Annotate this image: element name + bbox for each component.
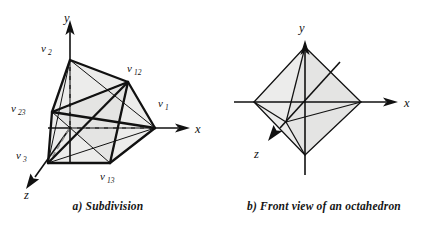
- vertex-label-v3: v 3: [16, 149, 27, 164]
- caption-octahedron: b) Front view of an octahedron: [216, 200, 432, 212]
- vertex-label-v12: v 12: [127, 62, 142, 77]
- v12-base: v: [127, 62, 132, 74]
- caption-subdivision: a) Subdivision: [0, 200, 216, 212]
- v13-sub: 13: [107, 176, 115, 185]
- v1-base: v: [158, 97, 163, 109]
- z-axis-label: z: [23, 188, 29, 200]
- octahedron-diagram: y x z: [216, 0, 432, 200]
- v3-sub: 3: [22, 155, 27, 164]
- panel-subdivision: y x z v 2 v 12 v 23 v: [0, 0, 216, 229]
- v2-sub: 2: [48, 48, 52, 57]
- panel-octahedron: y x z b) Front view of an octahedron: [216, 0, 432, 229]
- y-axis-label-b: y: [297, 21, 305, 35]
- subdivision-diagram: y x z v 2 v 12 v 23 v: [0, 0, 216, 200]
- x-axis-label: x: [194, 122, 201, 136]
- z-axis-label-b: z: [253, 147, 259, 161]
- v3-base: v: [16, 149, 21, 161]
- v1-sub: 1: [165, 103, 169, 112]
- v13-base: v: [100, 170, 105, 182]
- v2-base: v: [41, 42, 46, 54]
- y-axis-label: y: [62, 11, 70, 25]
- v23-sub: 23: [18, 108, 26, 117]
- vertex-label-v2: v 2: [41, 42, 52, 57]
- v23-base: v: [11, 102, 16, 114]
- figure-root: y x z v 2 v 12 v 23 v: [0, 0, 432, 229]
- vertex-label-v1: v 1: [158, 97, 169, 112]
- x-axis-label-b: x: [403, 96, 410, 110]
- vertex-label-v13: v 13: [100, 170, 115, 185]
- v12-sub: 12: [134, 68, 142, 77]
- vertex-label-v23: v 23: [11, 102, 26, 117]
- z-axis-arrowhead: [26, 174, 39, 190]
